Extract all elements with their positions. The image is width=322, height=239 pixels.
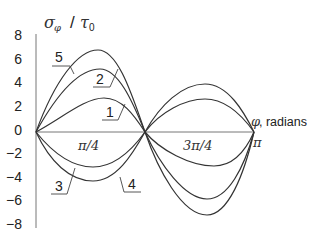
stress-distribution-chart: σ φ / τ 0 8 6 4 2 0 −2 −4 −6 −8 π/4 3π/4… [0,0,322,239]
svg-text:φ: φ [54,22,61,33]
x-axis-label: φ , radians [251,114,307,129]
x-tick-3pi-4: 3π/4 [183,138,212,153]
y-tick-neg8: −8 [6,216,22,232]
svg-text:5: 5 [55,49,63,65]
y-tick-4: 4 [14,74,22,90]
y-tick-8: 8 [14,27,22,43]
y-tick-labels: 8 6 4 2 0 −2 −4 −6 −8 [6,27,22,232]
y-tick-6: 6 [14,51,22,67]
y-tick-2: 2 [14,98,22,114]
svg-text:1: 1 [106,104,114,120]
svg-text:3: 3 [55,178,63,194]
svg-text:2: 2 [96,71,104,87]
curve-label-5: 5 [52,49,74,74]
svg-text:0: 0 [89,22,95,33]
y-tick-neg6: −6 [6,192,22,208]
curve-label-3: 3 [51,168,75,194]
y-tick-neg2: −2 [6,145,22,161]
x-tick-pi: π [252,135,262,150]
x-tick-pi-4: π/4 [77,138,99,153]
svg-text:/: / [70,13,75,32]
curve-label-4: 4 [120,176,141,192]
svg-text:4: 4 [128,176,136,192]
svg-text:, radians: , radians [259,115,307,129]
y-axis-label: σ φ / τ 0 [44,13,95,33]
curve-label-2: 2 [93,69,118,87]
y-tick-neg4: −4 [6,169,22,185]
y-tick-0: 0 [14,122,22,138]
curve-label-1: 1 [102,104,125,120]
